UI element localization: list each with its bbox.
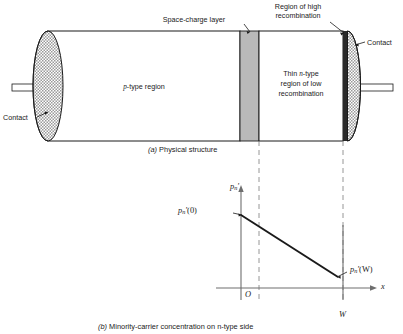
label-contact-right: Contact: [367, 38, 392, 47]
figure-container: Space-charge layer Region of high recomb…: [0, 0, 403, 334]
caption-a-marker: (a): [148, 145, 157, 154]
label-thin-n-type-line2: region of low: [259, 79, 343, 88]
thin-word: Thin: [283, 69, 299, 78]
right-contact-cap: [348, 31, 361, 141]
pw-pointer-line: [337, 272, 347, 277]
figure-vector-layer: [0, 0, 403, 334]
w-tick-label-text: W: [339, 310, 346, 319]
label-p-type-region: p-type region: [94, 82, 194, 92]
caption-panel-b: (b) Minority-carrier concentration on n-…: [98, 322, 253, 331]
caption-b-text: Minority-carrier concentration on n-type…: [109, 322, 253, 331]
label-contact-left: Contact: [3, 113, 28, 122]
y-axis-arrowhead: [238, 185, 243, 192]
concentration-line: [241, 215, 338, 277]
w-tick-label: W: [339, 310, 346, 319]
projection-guides: [259, 141, 343, 300]
label-space-charge-layer: Space-charge layer: [148, 15, 240, 24]
caption-b-marker: (b): [98, 322, 107, 331]
label-region-high-recombination-line2: recombination: [262, 11, 334, 20]
label-thin-n-type-line1: Thin n-type: [259, 69, 343, 79]
thin-n-suffix: -type: [303, 69, 319, 78]
pw-label-arg: (W): [359, 265, 372, 274]
x-axis-arrowhead: [370, 285, 377, 290]
label-thin-n-type-line3: recombination: [259, 89, 343, 98]
origin-label: O: [245, 290, 251, 299]
p-type-region-text: -type region: [127, 82, 165, 91]
x-axis-label-text: x: [381, 282, 385, 291]
concentration-plot: [216, 185, 377, 300]
space-charge-layer-band: [240, 31, 259, 141]
caption-panel-a: (a) Physical structure: [148, 145, 217, 154]
origin-label-text: O: [245, 290, 251, 299]
right-contact-edge: [343, 31, 348, 141]
cut-off-header-fragment: [0, 0, 403, 4]
y-axis-label: pn': [230, 182, 239, 191]
p0-point-label: pn'(0): [178, 206, 232, 215]
y-axis-label-prime: ': [237, 182, 239, 191]
caption-a-text: Physical structure: [159, 145, 217, 154]
x-axis-label: x: [381, 282, 385, 291]
pw-point-label: pn'(W): [350, 265, 373, 274]
p0-label-arg: (0): [187, 206, 197, 215]
